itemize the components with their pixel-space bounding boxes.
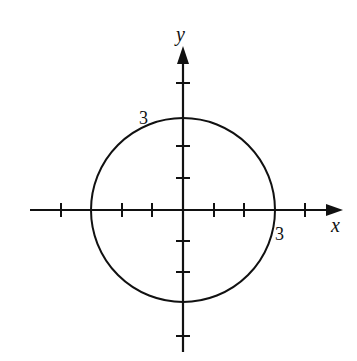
x-axis-label: x <box>330 214 340 236</box>
radius-label-right: 3 <box>275 224 284 244</box>
y-axis-label: y <box>174 23 185 46</box>
radius-label-top: 3 <box>139 108 148 128</box>
coordinate-plot: y x 3 3 <box>0 0 357 361</box>
y-axis-arrow-icon <box>177 46 189 64</box>
